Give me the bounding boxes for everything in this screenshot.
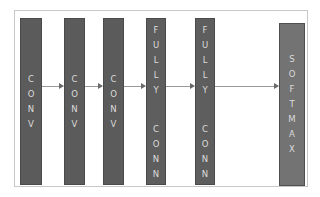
- layer-letter: Y: [153, 83, 158, 98]
- layer-letter: S: [289, 52, 294, 67]
- arrow-icon: [215, 86, 278, 87]
- layer-letter: L: [154, 53, 159, 68]
- layer-letter: T: [289, 97, 294, 112]
- layer-letter: Y: [202, 83, 207, 98]
- layer-letter: N: [28, 102, 34, 117]
- layer-letter: A: [289, 127, 295, 142]
- softmax-layer: S O F T M A X: [279, 23, 305, 186]
- arrow-icon: [166, 86, 194, 87]
- layer-letter: V: [72, 117, 78, 132]
- layer-letter: L: [203, 53, 208, 68]
- layer-letter: N: [110, 102, 116, 117]
- layer-letter: F: [290, 82, 295, 97]
- conv-layer-3: C O N V: [103, 18, 124, 185]
- layer-letter: O: [153, 137, 160, 152]
- layer-letter: O: [202, 137, 209, 152]
- arrow-icon: [85, 86, 102, 87]
- layer-letter: C: [153, 122, 159, 137]
- layer-letter: N: [153, 152, 159, 167]
- layer-letter: O: [71, 87, 78, 102]
- layer-letter: F: [154, 23, 159, 38]
- layer-letter: L: [203, 68, 208, 83]
- layer-letter: N: [71, 102, 77, 117]
- fully-connected-layer-2: F U L L Y C O N N: [195, 18, 215, 185]
- fully-connected-layer-1: F U L L Y C O N N: [146, 18, 166, 185]
- layer-letter: O: [28, 87, 35, 102]
- layer-letter: C: [28, 72, 34, 87]
- layer-letter: X: [289, 142, 295, 157]
- layer-letter: F: [203, 23, 208, 38]
- layer-letter: C: [202, 122, 208, 137]
- arrow-icon: [42, 86, 63, 87]
- conv-layer-2: C O N V: [64, 18, 85, 185]
- layer-letter: N: [202, 152, 208, 167]
- arrow-icon: [124, 86, 145, 87]
- layer-letter: V: [111, 117, 117, 132]
- layer-letter: O: [289, 67, 296, 82]
- layer-letter: L: [154, 68, 159, 83]
- layer-letter: U: [153, 38, 159, 53]
- layer-letter: C: [111, 72, 117, 87]
- layer-letter: C: [72, 72, 78, 87]
- layer-letter: U: [202, 38, 208, 53]
- layer-letter: V: [28, 117, 34, 132]
- layer-letter: N: [202, 167, 208, 182]
- layer-letter: O: [110, 87, 117, 102]
- layer-letter: M: [288, 112, 295, 127]
- layer-letter: N: [153, 167, 159, 182]
- conv-layer-1: C O N V: [20, 18, 42, 185]
